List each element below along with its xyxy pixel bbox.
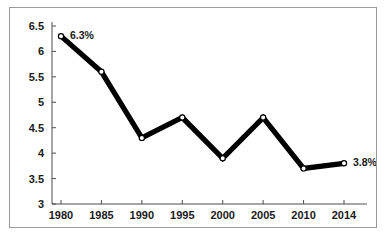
data-point-marker [180, 115, 185, 120]
y-axis-tick-label: 6.5 [29, 20, 44, 32]
data-point-marker [220, 156, 225, 161]
x-axis-tick-label: 2014 [332, 209, 357, 221]
y-axis-tick-label: 3 [38, 198, 44, 210]
x-axis-tick-label: 1995 [170, 209, 194, 221]
data-point-annotation: 3.8% [353, 156, 376, 168]
y-axis-tick-label: 5.5 [29, 71, 44, 83]
y-axis-tick-label: 5 [38, 96, 44, 108]
y-axis-tick-label: 4 [38, 147, 45, 159]
data-point-marker [301, 166, 306, 171]
line-chart-canvas: 33.544.555.566.5198019851990199520002005… [10, 8, 376, 227]
data-point-marker [261, 115, 266, 120]
data-point-marker [139, 135, 144, 140]
data-point-annotation: 6.3% [70, 29, 95, 41]
chart-border-frame: 33.544.555.566.5198019851990199520002005… [9, 7, 377, 228]
x-axis-tick-label: 1985 [89, 209, 113, 221]
x-axis-tick-label: 2000 [210, 209, 234, 221]
y-axis-tick-label: 3.5 [29, 173, 44, 185]
x-axis-tick-label: 2005 [251, 209, 275, 221]
chart-figure: 33.544.555.566.5198019851990199520002005… [0, 0, 388, 246]
x-axis-tick-label: 1980 [49, 209, 73, 221]
data-point-marker [341, 161, 346, 166]
data-point-marker [99, 69, 104, 74]
y-axis-tick-label: 6 [38, 45, 44, 57]
data-point-marker [58, 34, 63, 39]
data-series-line [61, 36, 344, 168]
x-axis-tick-label: 2010 [291, 209, 315, 221]
y-axis-tick-label: 4.5 [29, 122, 44, 134]
x-axis-tick-label: 1990 [130, 209, 154, 221]
